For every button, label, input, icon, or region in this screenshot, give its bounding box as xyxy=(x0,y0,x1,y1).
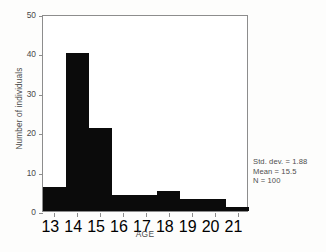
bar-17 xyxy=(135,195,158,211)
stats-std-dev: Std. dev. = 1.88 xyxy=(253,157,307,167)
y-tick-line xyxy=(39,134,43,135)
y-tick-line xyxy=(39,55,43,56)
bar-21 xyxy=(226,207,249,211)
stats-n: N = 100 xyxy=(253,176,307,186)
y-tick-label: 20 xyxy=(27,128,36,138)
bar-15 xyxy=(89,128,112,211)
y-tick-label: 50 xyxy=(27,10,36,20)
y-axis-title: Number of individuals xyxy=(15,29,24,189)
stats-mean: Mean = 15.5 xyxy=(253,167,307,177)
y-tick-label: 0 xyxy=(31,207,36,217)
y-tick-line xyxy=(39,174,43,175)
histogram-figure: Number of individuals 01020304050 131415… xyxy=(0,0,326,252)
bar-19 xyxy=(180,199,203,211)
bar-13 xyxy=(43,187,66,211)
bar-16 xyxy=(112,195,135,211)
bar-18 xyxy=(157,191,180,211)
bar-14 xyxy=(66,53,89,211)
stats-annotation: Std. dev. = 1.88 Mean = 15.5 N = 100 xyxy=(253,157,307,186)
bar-series xyxy=(43,16,247,211)
y-tick-label: 10 xyxy=(27,168,36,178)
bar-20 xyxy=(203,199,226,211)
y-tick-label: 30 xyxy=(27,89,36,99)
y-tick-label: 40 xyxy=(27,49,36,59)
x-axis-title: AGE xyxy=(42,229,248,239)
y-tick-line xyxy=(39,95,43,96)
plot-area: 01020304050 xyxy=(42,15,248,212)
y-tick-line xyxy=(39,16,43,17)
